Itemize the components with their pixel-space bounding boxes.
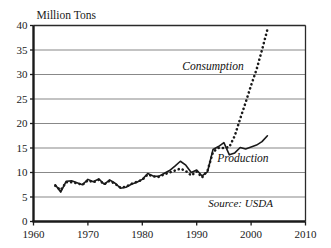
chart-annotations: ConsumptionProductionSource: USDA xyxy=(182,60,273,209)
y-tick-label-30: 30 xyxy=(17,68,29,80)
series-line-consumption xyxy=(55,29,267,190)
x-tick-label-2000: 2000 xyxy=(240,228,263,240)
y-tick-label-15: 15 xyxy=(17,142,29,154)
x-tick-label-1960: 1960 xyxy=(23,228,46,240)
x-tick-label-1980: 1980 xyxy=(131,228,154,240)
series-line-production xyxy=(55,136,267,192)
y-tick-label-20: 20 xyxy=(17,117,29,129)
y-axis-ticks: 0510152025303540 xyxy=(17,19,34,227)
x-tick-label-2010: 2010 xyxy=(295,228,318,240)
y-tick-label-0: 0 xyxy=(22,215,28,227)
data-series-layer xyxy=(55,29,267,192)
y-axis-title: Million Tons xyxy=(37,9,97,21)
y-tick-label-10: 10 xyxy=(17,166,29,178)
x-tick-label-1990: 1990 xyxy=(186,228,209,240)
y-tick-label-35: 35 xyxy=(17,44,29,56)
annotation-source-usda: Source: USDA xyxy=(208,197,273,209)
x-axis-ticks: 196019701980199020002010 xyxy=(23,222,318,240)
chart-figure: 0510152025303540 19601970198019902000201… xyxy=(0,0,331,248)
annotation-consumption: Consumption xyxy=(182,60,244,73)
y-tick-label-40: 40 xyxy=(17,19,29,31)
chart-canvas: 0510152025303540 19601970198019902000201… xyxy=(0,0,331,248)
x-tick-label-1970: 1970 xyxy=(77,228,100,240)
y-tick-label-25: 25 xyxy=(17,93,29,105)
y-tick-label-5: 5 xyxy=(22,191,28,203)
annotation-production: Production xyxy=(216,152,269,164)
